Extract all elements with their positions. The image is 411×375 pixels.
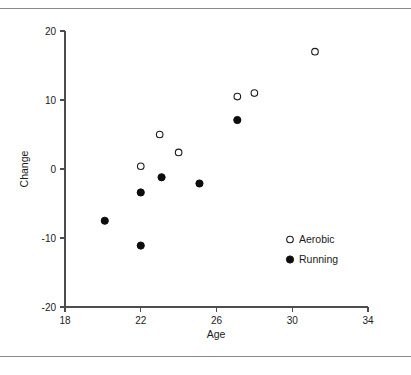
data-point-running — [101, 217, 108, 224]
x-axis-title: Age — [207, 328, 226, 340]
legend-marker-running — [286, 256, 293, 263]
data-point-running — [137, 242, 144, 249]
y-axis-ticks: 20100-10-20 — [42, 26, 65, 313]
data-point-aerobic — [137, 163, 144, 170]
data-point-aerobic — [234, 93, 241, 100]
legend-label-aerobic: Aerobic — [299, 233, 335, 245]
scatter-plot: 20100-10-20 1822263034 AerobicRunning Ag… — [0, 0, 411, 375]
y-axis-title: Change — [18, 150, 30, 187]
x-tick-label: 18 — [59, 315, 71, 326]
data-point-aerobic — [175, 149, 182, 156]
data-point-running — [158, 174, 165, 181]
chart-legend: AerobicRunning — [286, 233, 338, 265]
legend-label-running: Running — [299, 253, 338, 265]
y-tick-label: 20 — [45, 26, 57, 37]
x-tick-label: 30 — [287, 315, 299, 326]
axes — [65, 31, 368, 307]
data-point-aerobic — [251, 90, 258, 97]
data-point-running — [234, 116, 241, 123]
data-point-running — [196, 180, 203, 187]
data-points-layer — [101, 48, 318, 249]
data-point-aerobic — [156, 131, 163, 138]
legend-marker-aerobic — [287, 236, 294, 243]
data-point-running — [137, 189, 144, 196]
data-point-aerobic — [312, 48, 319, 55]
y-tick-label: 10 — [45, 95, 57, 106]
x-tick-label: 34 — [362, 315, 374, 326]
x-axis-ticks: 1822263034 — [59, 307, 374, 326]
y-tick-label: -20 — [42, 302, 57, 313]
x-tick-label: 26 — [211, 315, 223, 326]
figure-container: 20100-10-20 1822263034 AerobicRunning Ag… — [0, 0, 411, 375]
y-tick-label: 0 — [50, 164, 56, 175]
x-tick-label: 22 — [135, 315, 147, 326]
y-tick-label: -10 — [42, 233, 57, 244]
